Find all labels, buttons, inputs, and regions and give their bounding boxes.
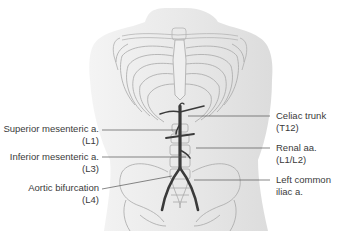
label-name: Celiac trunk: [276, 110, 326, 122]
label-level: (T12): [276, 122, 326, 134]
label-level: (L1/L2): [276, 154, 317, 166]
label-superior-mesenteric: Superior mesenteric a. (L1): [3, 123, 99, 146]
label-level: (L4): [28, 194, 99, 206]
label-celiac-trunk: Celiac trunk (T12): [276, 110, 326, 133]
label-name: Renal aa.: [276, 142, 317, 154]
sternum: [173, 40, 186, 100]
label-renal-arteries: Renal aa. (L1/L2): [276, 142, 317, 165]
label-level: (L3): [10, 163, 99, 175]
label-name: Superior mesenteric a.: [3, 123, 99, 135]
label-name: Left common: [276, 174, 331, 186]
label-name: Inferior mesenteric a.: [10, 151, 99, 163]
label-level: (L1): [3, 135, 99, 147]
label-name: Aortic bifurcation: [28, 182, 99, 194]
label-level: iliac a.: [276, 186, 331, 198]
label-left-common-iliac: Left common iliac a.: [276, 174, 331, 197]
label-aortic-bifurcation: Aortic bifurcation (L4): [28, 182, 99, 205]
label-inferior-mesenteric: Inferior mesenteric a. (L3): [10, 151, 99, 174]
